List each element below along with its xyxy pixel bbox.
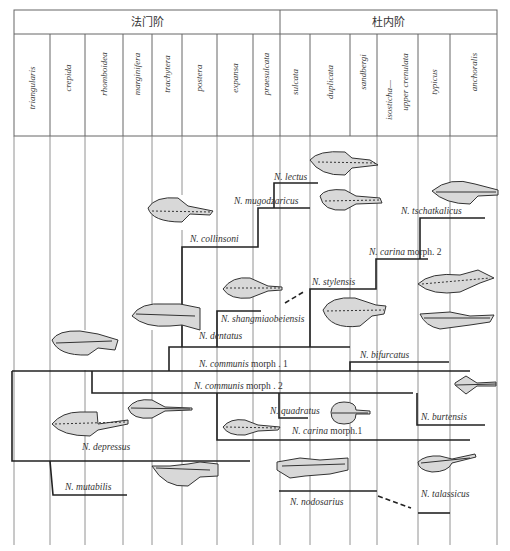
specimen-shangmiaobeiensis-icon	[223, 278, 282, 299]
taxon-label-collinsoni: N. collinsoni	[189, 234, 239, 244]
taxon-label-mutabilis: N. mutabilis	[64, 482, 112, 492]
taxon-label-dentatus: N. dentatus	[198, 331, 243, 341]
specimen-stylensis-icon	[323, 298, 386, 327]
zone-isosticha: isosticha—	[384, 79, 394, 120]
taxon-label-shangmiaobeiensis: N. shangmiaobeiensis	[220, 314, 305, 324]
zone-upper-crenulata: upper crenulata	[400, 53, 410, 111]
taxon-labels: N. lectus N. mugodzaricus N. collinsoni …	[64, 172, 470, 507]
taxon-label-lectus: N. lectus	[273, 172, 308, 182]
specimen-burtensis-icon	[455, 376, 496, 394]
specimen-carina2-a-icon	[418, 270, 494, 293]
zone-expansa: expansa	[230, 63, 240, 93]
zone-rhomboidea: rhomboidea	[99, 52, 109, 96]
specimen-tschatkalicus-icon	[432, 181, 498, 204]
zone-anchoralis: anchoralis	[469, 52, 479, 91]
taxon-label-nodosarius: N. nodosarius	[289, 497, 344, 507]
specimen-carina2-b-icon	[420, 312, 494, 329]
zone-typicus: typicus	[429, 69, 439, 95]
specimen-lectus-icon	[310, 152, 378, 175]
taxon-label-tschatkalicus: N. tschatkalicus	[400, 206, 462, 216]
taxon-label-carina-1: N. carina morph.1	[291, 426, 362, 436]
zone-praesulcata: praesulcata	[261, 52, 271, 96]
zone-postera: postera	[194, 64, 204, 93]
taxon-label-stylensis: N. stylensis	[311, 277, 356, 287]
taxon-label-communis-1: N. communis morph . 1	[198, 359, 288, 369]
specimen-nodosarius-icon	[277, 458, 348, 478]
specimen-crepida-icon	[52, 331, 118, 355]
stage-famennian: 法门阶	[131, 15, 164, 28]
taxon-label-burtensis: N. burtensis	[420, 412, 467, 422]
zone-marginifera: marginifera	[132, 52, 142, 95]
taxon-label-quadratus: N. quadratus	[269, 406, 320, 416]
taxon-label-carina-2: N. carina morph. 2	[368, 247, 442, 257]
zone-sulcata: sulcata	[290, 69, 300, 95]
taxon-label-mugodzharicus: N. mugodzaricus	[233, 196, 299, 206]
header-frame	[14, 10, 497, 136]
zone-crepida: crepida	[63, 64, 73, 92]
specimen-dentatus-icon	[132, 304, 200, 330]
stage-tournaisian: 杜内阶	[372, 15, 405, 28]
specimen-depressus-icon	[52, 412, 128, 436]
taxon-label-depressus: N. depressus	[81, 442, 131, 452]
taxon-label-communis-2: N. communis morph . 2	[193, 381, 283, 391]
zone-duplicata: duplicata	[325, 65, 335, 99]
zone-triangularis: triangularis	[27, 66, 37, 110]
taxon-label-talassicus: N. talassicus	[420, 489, 470, 499]
specimen-collinsoni-icon	[148, 198, 213, 222]
specimen-talassicus-icon	[418, 454, 476, 472]
specimen-mutabilis-icon	[152, 462, 218, 486]
specimen-mugodzharicus-icon	[320, 190, 382, 211]
lineage-bifurcatus	[350, 362, 449, 371]
phylogeny-chart: 法门阶 杜内阶 triangularis crepida rhomboidea …	[0, 0, 510, 551]
specimen-carina1-icon	[223, 420, 280, 435]
zone-trachytera: trachytera	[162, 55, 172, 93]
taxon-label-bifurcatus: N. bifurcatus	[359, 350, 410, 360]
zone-sandbergi: sandbergi	[358, 54, 368, 90]
specimen-quadratus-icon	[331, 402, 370, 424]
